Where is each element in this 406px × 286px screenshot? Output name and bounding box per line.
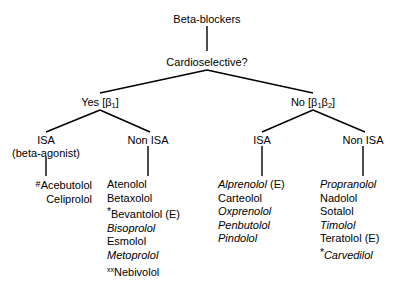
- branch-no-answer: No: [291, 96, 305, 108]
- subnode-no-non-isa: Non ISA: [343, 134, 384, 147]
- beta-blocker-decision-tree: Beta-blockers Cardioselective? Yes [β1] …: [0, 0, 406, 286]
- drug-entry: Bisoprolol: [107, 222, 180, 236]
- drug-name: Alprenolol: [218, 178, 267, 190]
- subnode-yes-isa: ISA (beta-agonist): [12, 134, 80, 159]
- drug-entry: *Bevantolol (E): [107, 205, 180, 222]
- drug-name: Metoprolol: [107, 249, 158, 261]
- drug-name: Bisoprolol: [107, 222, 155, 234]
- drug-list-no-non-isa: PropranololNadololSotalolTimololTeratolo…: [320, 178, 379, 263]
- drug-name: Nebivolol: [114, 266, 159, 278]
- subnode-yes-isa-sublabel: (beta-agonist): [12, 147, 80, 160]
- drug-list-no-isa: Alprenolol (E)CarteololOxprenololPenbuto…: [218, 178, 285, 246]
- drug-name: Nadolol: [320, 192, 357, 204]
- subnode-no-isa-label: ISA: [253, 134, 271, 147]
- drug-suffix: (E): [362, 232, 380, 244]
- branch-label-no: No [β1β2]: [291, 96, 335, 113]
- node-question-label: Cardioselective?: [166, 56, 247, 68]
- drug-name: Celiprolol: [46, 193, 92, 205]
- drug-entry: Metoprolol: [107, 249, 180, 263]
- drug-entry: Celiprolol: [0, 193, 92, 207]
- drug-name: Penbutolol: [218, 219, 270, 231]
- drug-name: Atenolol: [107, 178, 147, 190]
- drug-entry: Esmolol: [107, 235, 180, 249]
- drug-suffix: (E): [267, 178, 285, 190]
- drug-suffix: (E): [162, 208, 180, 220]
- drug-name: Carvedilol: [324, 249, 373, 261]
- drug-entry: *Carvedilol: [320, 246, 379, 263]
- drug-name: Pindolol: [218, 232, 257, 244]
- drug-name: Sotalol: [320, 205, 354, 217]
- drug-entry: xxNebivolol: [107, 263, 180, 280]
- subnode-yes-non-isa-label: Non ISA: [128, 134, 169, 147]
- subnode-no-isa: ISA: [253, 134, 271, 147]
- drug-entry: Sotalol: [320, 205, 379, 219]
- drug-name: Betaxolol: [107, 192, 152, 204]
- node-root: Beta-blockers: [173, 13, 240, 26]
- node-root-label: Beta-blockers: [173, 13, 240, 25]
- drug-entry: Pindolol: [218, 232, 285, 246]
- drug-name: Teratolol: [320, 232, 362, 244]
- drug-name: Propranolol: [320, 178, 376, 190]
- subnode-yes-non-isa: Non ISA: [128, 134, 169, 147]
- drug-entry: Atenolol: [107, 178, 180, 192]
- drug-name: Bevantolol: [111, 208, 162, 220]
- drug-entry: Timolol: [320, 219, 379, 233]
- drug-list-yes-isa: #AcebutololCeliprolol: [0, 178, 92, 206]
- drug-entry: Carteolol: [218, 192, 285, 206]
- drug-name: Carteolol: [218, 192, 262, 204]
- branch-label-yes: Yes [β1]: [81, 96, 119, 113]
- drug-name: Oxprenolol: [218, 205, 271, 217]
- subnode-yes-isa-label: ISA: [12, 134, 80, 147]
- drug-marker: xx: [107, 266, 114, 273]
- drug-entry: Oxprenolol: [218, 205, 285, 219]
- drug-list-yes-non-isa: AtenololBetaxolol*Bevantolol (E)Bisoprol…: [107, 178, 180, 279]
- branch-no-bracket-close: ]: [332, 96, 335, 108]
- drug-entry: Betaxolol: [107, 192, 180, 206]
- subnode-no-non-isa-label: Non ISA: [343, 134, 384, 147]
- branch-yes-bracket-close: ]: [116, 96, 119, 108]
- node-cardioselective-question: Cardioselective?: [166, 56, 247, 69]
- drug-entry: Teratolol (E): [320, 232, 379, 246]
- drug-name: Acebutolol: [41, 179, 92, 191]
- drug-name: Timolol: [320, 219, 355, 231]
- drug-entry: #Acebutolol: [0, 178, 92, 193]
- drug-name: Esmolol: [107, 235, 146, 247]
- drug-entry: Nadolol: [320, 192, 379, 206]
- drug-entry: Penbutolol: [218, 219, 285, 233]
- drug-entry: Alprenolol (E): [218, 178, 285, 192]
- branch-yes-answer: Yes: [81, 96, 99, 108]
- drug-entry: Propranolol: [320, 178, 379, 192]
